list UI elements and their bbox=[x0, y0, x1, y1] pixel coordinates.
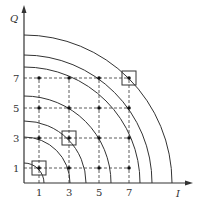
constellation-point bbox=[67, 166, 71, 170]
circle-arc bbox=[24, 163, 44, 183]
constellation-point bbox=[97, 166, 101, 170]
constellation-point bbox=[127, 106, 131, 110]
circle-arc bbox=[24, 137, 70, 183]
circle-arc bbox=[24, 67, 140, 183]
constellation-point bbox=[127, 166, 131, 170]
constellation-point bbox=[97, 76, 101, 80]
y-arrow-icon bbox=[22, 5, 27, 13]
x-tick-label: 5 bbox=[96, 187, 102, 198]
constellation-point bbox=[97, 136, 101, 140]
x-tick-label: 3 bbox=[66, 187, 72, 198]
x-arrow-icon bbox=[185, 181, 193, 186]
constellation-point bbox=[127, 136, 131, 140]
constellation-point bbox=[37, 106, 41, 110]
y-tick-label: 1 bbox=[13, 163, 19, 174]
constellation-point bbox=[97, 106, 101, 110]
constellation-diagram: 13571357IQ bbox=[0, 0, 203, 207]
constellation-point bbox=[127, 76, 131, 80]
diagram-canvas: 13571357IQ bbox=[0, 0, 203, 207]
y-tick-label: 5 bbox=[13, 103, 19, 114]
x-tick-label: 7 bbox=[126, 187, 132, 198]
y-axis-label: Q bbox=[10, 13, 18, 24]
constellation-point bbox=[67, 136, 71, 140]
circle-arc bbox=[24, 55, 152, 183]
constellation-point bbox=[67, 106, 71, 110]
constellation-point bbox=[37, 136, 41, 140]
y-tick-label: 7 bbox=[13, 73, 19, 84]
constellation-point bbox=[67, 76, 71, 80]
x-tick-label: 1 bbox=[36, 187, 42, 198]
y-tick-label: 3 bbox=[13, 133, 19, 144]
constellation-point bbox=[37, 76, 41, 80]
constellation-point bbox=[37, 166, 41, 170]
circle-arc bbox=[24, 121, 86, 183]
x-axis-label: I bbox=[175, 188, 181, 199]
